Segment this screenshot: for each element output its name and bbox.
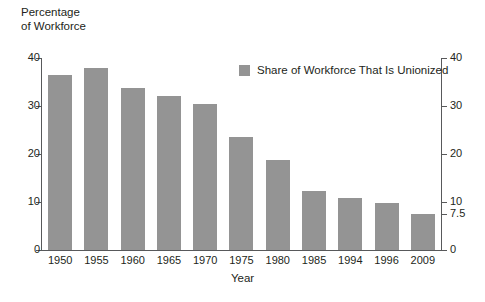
right-axis-tick <box>442 202 447 203</box>
bar <box>121 88 145 250</box>
x-axis-tick-label: 1975 <box>223 254 259 266</box>
bar-slot <box>405 58 441 250</box>
bar-slot <box>296 58 332 250</box>
bar <box>84 68 108 250</box>
x-axis-tick-label: 1965 <box>151 254 187 266</box>
right-axis-tick <box>442 250 447 251</box>
x-axis-tick-label: 1960 <box>115 254 151 266</box>
bar <box>375 203 399 250</box>
bar <box>266 160 290 250</box>
bar-slot <box>115 58 151 250</box>
bar-slot <box>78 58 114 250</box>
left-axis-tick-label: 10 <box>28 195 40 207</box>
right-axis-tick-label: 7.5 <box>450 207 465 219</box>
right-axis-tick-label: 0 <box>450 243 456 255</box>
left-axis-tick-label: 30 <box>28 99 40 111</box>
bar-slot <box>187 58 223 250</box>
bar-slot <box>151 58 187 250</box>
x-axis-tick-label: 1980 <box>260 254 296 266</box>
x-axis-tick-labels: 1950195519601965197019751980198519941996… <box>42 254 441 270</box>
left-axis-tick-label: 20 <box>28 147 40 159</box>
right-axis-tick-label: 30 <box>450 99 462 111</box>
x-axis-title: Year <box>0 272 485 284</box>
bar <box>338 198 362 250</box>
right-axis-tick-label: 40 <box>450 51 462 63</box>
legend: Share of Workforce That Is Unionized <box>239 64 448 76</box>
plot-area: 403020100 403020107.50 <box>42 58 441 250</box>
bar <box>229 137 253 250</box>
bar-slot <box>223 58 259 250</box>
bar-series <box>42 58 441 250</box>
x-axis-tick-label: 1955 <box>78 254 114 266</box>
left-axis-tick-label: 40 <box>28 51 40 63</box>
bar <box>193 104 217 250</box>
bar-slot <box>368 58 404 250</box>
bar <box>302 191 326 250</box>
bar <box>48 75 72 250</box>
x-axis-tick-label: 1970 <box>187 254 223 266</box>
bar-slot <box>332 58 368 250</box>
bar <box>157 96 181 250</box>
legend-swatch-icon <box>239 65 250 76</box>
bar-slot <box>260 58 296 250</box>
bar-slot <box>42 58 78 250</box>
x-axis-tick-label: 1985 <box>296 254 332 266</box>
x-axis-tick-label: 1950 <box>42 254 78 266</box>
right-axis-tick <box>442 106 447 107</box>
right-axis-tick-label: 20 <box>450 147 462 159</box>
right-axis-tick <box>442 58 447 59</box>
x-axis-line <box>41 250 442 251</box>
y-axis-title: Percentage of Workforce <box>21 6 86 33</box>
x-axis-tick-label: 2009 <box>405 254 441 266</box>
unionization-bar-chart: Percentage of Workforce 403020100 403020… <box>0 0 485 302</box>
left-axis-tick-label: 0 <box>34 243 40 255</box>
bar <box>411 214 435 250</box>
right-axis-tick-label: 10 <box>450 195 462 207</box>
right-axis-tick <box>442 154 447 155</box>
x-axis-tick-label: 1996 <box>368 254 404 266</box>
legend-label: Share of Workforce That Is Unionized <box>257 64 448 76</box>
right-axis-tick <box>442 214 447 215</box>
x-axis-tick-label: 1994 <box>332 254 368 266</box>
